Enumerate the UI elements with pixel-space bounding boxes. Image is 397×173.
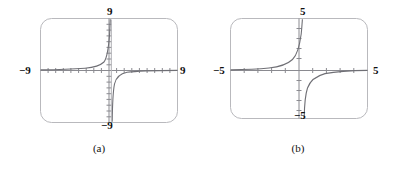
axis-label-b-top: 5 [300, 6, 306, 17]
calculator-screen-b: 5 −5 −5 5 [199, 0, 397, 140]
figure-container: 9 −9 −9 9 (a) [0, 0, 397, 173]
axis-label-a-left: −9 [19, 65, 31, 76]
caption-a: (a) [0, 142, 198, 154]
axis-label-b-bottom: −5 [294, 110, 306, 121]
panel-b: 5 −5 −5 5 (b) [199, 0, 397, 173]
axis-label-a-right: 9 [180, 65, 186, 76]
axis-label-b-right: 5 [373, 65, 379, 76]
axis-label-a-top: 9 [107, 6, 113, 17]
panel-a: 9 −9 −9 9 (a) [0, 0, 198, 173]
axis-label-a-bottom: −9 [101, 120, 113, 131]
caption-b: (b) [199, 142, 397, 154]
axis-label-b-left: −5 [213, 65, 225, 76]
calculator-screen-a: 9 −9 −9 9 [0, 0, 198, 140]
